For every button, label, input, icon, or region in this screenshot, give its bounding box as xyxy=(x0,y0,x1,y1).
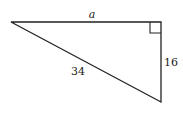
triangle-svg: a 16 34 xyxy=(0,0,183,119)
right-angle-marker xyxy=(150,22,161,33)
label-side-16: 16 xyxy=(164,56,178,69)
label-side-a: a xyxy=(89,8,96,21)
triangle-shape xyxy=(11,22,161,102)
triangle-diagram: a 16 34 xyxy=(0,0,183,119)
label-hypotenuse-34: 34 xyxy=(71,65,85,78)
